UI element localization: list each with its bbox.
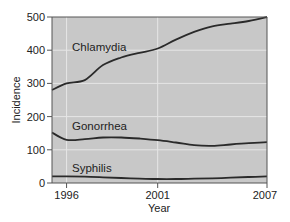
y-tick-label: 500 xyxy=(27,11,45,23)
x-tick-label: 2007 xyxy=(253,189,277,201)
y-tick-label: 400 xyxy=(27,44,45,56)
x-tick-label: 1996 xyxy=(54,189,78,201)
y-tick-label: 100 xyxy=(27,144,45,156)
y-tick-label: 200 xyxy=(27,111,45,123)
x-axis-title: Year xyxy=(148,202,171,214)
x-axis-ticks: 199620012007 xyxy=(54,183,277,201)
series-label-chlamydia: Chlamydia xyxy=(72,41,127,53)
series-label-syphilis: Syphilis xyxy=(72,162,112,174)
series-label-gonorrhea: Gonorrhea xyxy=(72,120,128,132)
y-tick-label: 300 xyxy=(27,77,45,89)
y-axis-title: Incidence xyxy=(10,76,22,123)
y-tick-label: 0 xyxy=(39,177,45,189)
y-axis-ticks: 0100200300400500 xyxy=(27,11,52,189)
incidence-line-chart: 0100200300400500 199620012007 Chlamydia … xyxy=(0,0,290,222)
x-tick-label: 2001 xyxy=(145,189,169,201)
